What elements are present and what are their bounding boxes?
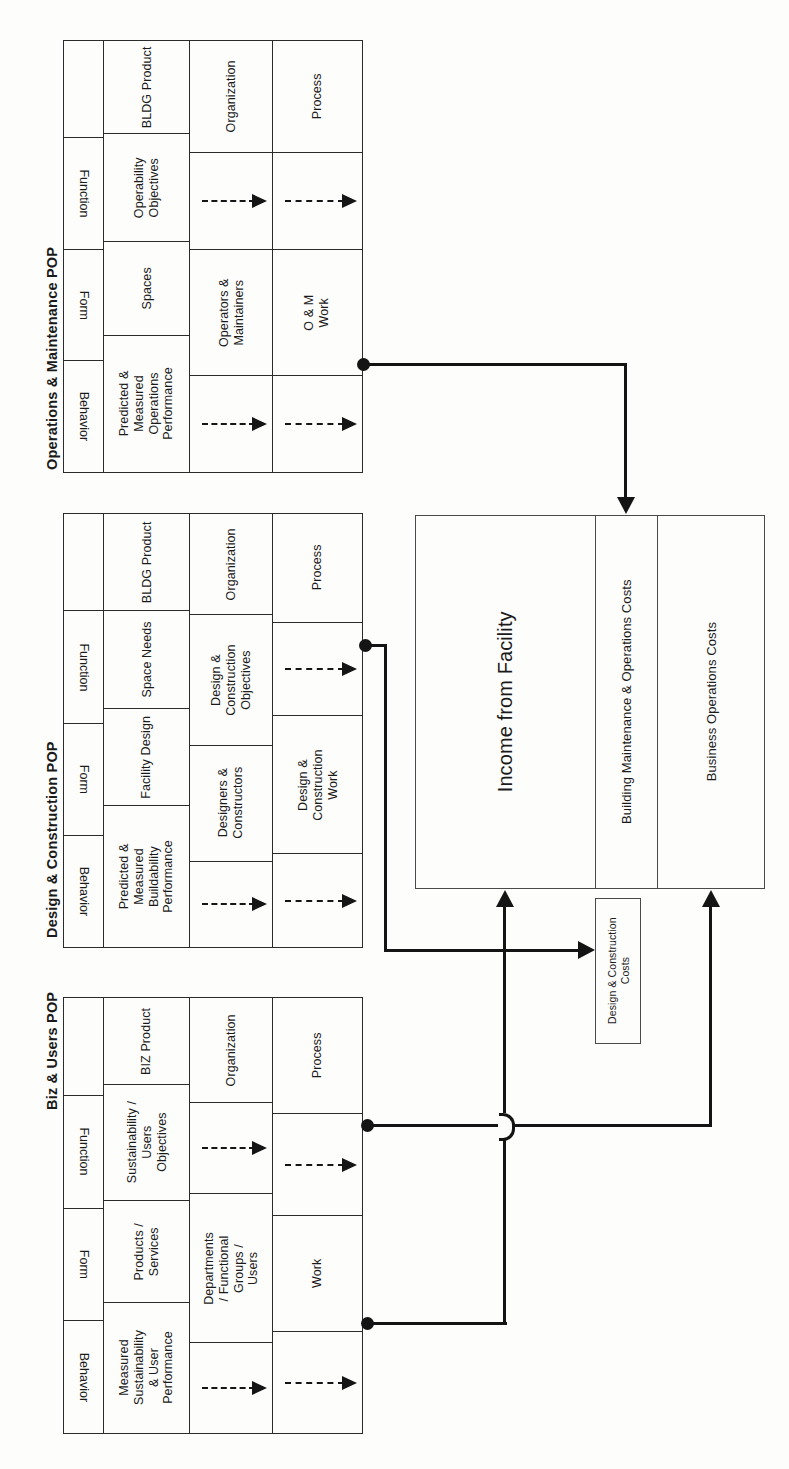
cell-function-product: Space Needs — [104, 611, 189, 708]
column-header-process: Process — [273, 998, 362, 1114]
dashed-arrow-icon — [190, 376, 271, 472]
cell-behavior-organization — [190, 376, 271, 472]
dashed-arrow-icon — [273, 854, 362, 947]
cell-behavior-organization — [190, 862, 271, 947]
connector-line-biz-process-horizontal-right — [512, 1124, 712, 1127]
column-header-product: BIZ Product — [104, 998, 189, 1085]
connector-line-om-horizontal — [363, 363, 625, 366]
cell-form-process: Work — [273, 1216, 362, 1332]
dashed-arrow-icon — [190, 862, 271, 947]
pop-table-biz-users: Function Form Behavior BIZ Product Susta… — [63, 997, 363, 1434]
axis-strip: Function Form Behavior — [64, 41, 104, 472]
pop-table-operations-maintenance: Function Form Behavior BLDG Product Oper… — [63, 40, 363, 473]
column-header-process: Process — [273, 514, 362, 623]
cell-function-process — [273, 153, 362, 250]
cell-function-process — [273, 623, 362, 717]
connector-arrowhead-income-from-facility — [496, 890, 514, 907]
column-organization: Organization Design & Construction Objec… — [190, 514, 272, 947]
column-header-organization: Organization — [190, 41, 271, 153]
axis-cell-behavior: Behavior — [64, 1321, 103, 1433]
connector-arrowhead-design-construction-costs — [578, 941, 595, 959]
pop-title-design-construction: Design & Construction POP — [44, 741, 60, 938]
connector-line-hop — [499, 1113, 515, 1141]
cell-form-organization: Departments / Functional Groups / Users — [190, 1194, 271, 1344]
column-header-organization: Organization — [190, 998, 271, 1103]
dashed-arrow-icon — [190, 153, 271, 249]
column-product: BIZ Product Sustainability / Users Objec… — [104, 998, 190, 1433]
axis-cell-behavior: Behavior — [64, 836, 103, 947]
dashed-arrow-icon — [273, 623, 362, 716]
cell-form-product: Spaces — [104, 242, 189, 335]
dashed-arrow-icon — [273, 153, 362, 249]
connector-line-om-vertical — [624, 363, 627, 497]
connector-arrowhead-building-maint-costs — [617, 497, 635, 514]
column-header-organization: Organization — [190, 514, 271, 615]
column-header-product: BLDG Product — [104, 41, 189, 134]
header-corner-cell — [64, 41, 103, 138]
column-process: Process Design & Construction Work — [273, 514, 362, 947]
column-process: Process Work — [273, 998, 362, 1433]
cell-form-product: Products / Services — [104, 1201, 189, 1303]
segment-business-operations-costs: Business Operations Costs — [658, 516, 766, 888]
cell-function-product: Operability Objectives — [104, 134, 189, 242]
dashed-arrow-icon — [273, 1114, 362, 1215]
column-organization: Organization Departments / Functional Gr… — [190, 998, 272, 1433]
cell-behavior-process — [273, 1332, 362, 1433]
pop-table-design-construction: Function Form Behavior BLDG Product Spac… — [63, 513, 363, 948]
axis-cell-form: Form — [64, 1209, 103, 1322]
axis-strip: Function Form Behavior — [64, 998, 104, 1433]
cell-function-process — [273, 1114, 362, 1216]
axis-cell-function: Function — [64, 138, 103, 250]
cell-behavior-product: Predicted & Measured Buildability Perfor… — [104, 806, 189, 947]
dashed-arrow-icon — [190, 1103, 271, 1193]
axis-cell-form: Form — [64, 250, 103, 362]
facility-economics-box: Income from Facility Building Maintenanc… — [415, 515, 765, 889]
connector-line-biz-process-vertical — [709, 905, 712, 1124]
axis-cell-function: Function — [64, 611, 103, 723]
column-process: Process O & M Work — [273, 41, 362, 472]
cell-form-process: Design & Construction Work — [273, 716, 362, 854]
segment-income-from-facility: Income from Facility — [416, 516, 596, 888]
axis-strip: Function Form Behavior — [64, 514, 104, 947]
axis-cell-function: Function — [64, 1096, 103, 1209]
connector-line-dc-horizontal — [384, 949, 578, 952]
cell-behavior-process — [273, 854, 362, 947]
connector-line-dc-vertical — [384, 644, 387, 952]
column-header-product: BLDG Product — [104, 514, 189, 611]
cell-form-process: O & M Work — [273, 250, 362, 376]
connector-line-biz-behavior-horizontal — [367, 1322, 507, 1325]
pop-title-operations-maintenance: Operations & Maintenance POP — [44, 247, 60, 470]
header-corner-cell — [64, 514, 103, 611]
axis-cell-behavior: Behavior — [64, 361, 103, 472]
cell-function-organization: Design & Construction Objectives — [190, 615, 271, 746]
column-header-process: Process — [273, 41, 362, 153]
dashed-arrow-icon — [190, 1343, 271, 1433]
cell-form-product: Facility Design — [104, 709, 189, 806]
cell-behavior-process — [273, 376, 362, 472]
axis-cell-form: Form — [64, 724, 103, 836]
cell-behavior-organization — [190, 1343, 271, 1433]
column-product: BLDG Product Space Needs Facility Design… — [104, 514, 190, 947]
pop-title-biz-users: Biz & Users POP — [44, 992, 60, 1110]
column-product: BLDG Product Operability Objectives Spac… — [104, 41, 190, 472]
diagram-canvas: Operations & Maintenance POP Function Fo… — [0, 0, 789, 1469]
dashed-arrow-icon — [273, 1332, 362, 1433]
column-organization: Organization Operators & Maintainers — [190, 41, 272, 472]
cell-function-organization — [190, 153, 271, 250]
cell-behavior-product: Measured Sustainability & User Performan… — [104, 1303, 189, 1433]
cell-function-product: Sustainability / Users Objectives — [104, 1085, 189, 1201]
connector-arrowhead-business-operations-costs — [702, 890, 720, 907]
connector-line-biz-process-horizontal-left — [367, 1124, 498, 1127]
cell-form-organization: Operators & Maintainers — [190, 250, 271, 376]
header-corner-cell — [64, 998, 103, 1096]
dashed-arrow-icon — [273, 376, 362, 472]
segment-building-maintenance-operations-costs: Building Maintenance & Operations Costs — [596, 516, 658, 888]
design-construction-costs-box: Design & Construction Costs — [595, 898, 641, 1044]
cell-function-organization — [190, 1103, 271, 1194]
cell-form-organization: Designers & Constructors — [190, 746, 271, 862]
cell-behavior-product: Predicted & Measured Operations Performa… — [104, 336, 189, 473]
